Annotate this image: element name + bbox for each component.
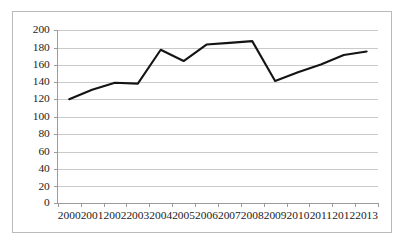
x-tick-label: 2006 — [195, 209, 218, 221]
x-tick-label: 2000 — [58, 209, 81, 221]
y-tick-labels-group: 020406080100120140160180200 — [33, 23, 50, 208]
y-tick-label: 200 — [33, 23, 50, 35]
x-tick-label: 2001 — [81, 209, 104, 221]
y-tick-label: 20 — [38, 180, 50, 192]
y-tick-label: 120 — [33, 92, 50, 104]
x-tick-labels-group: 2000200120022003200420052006200720082009… — [58, 209, 379, 221]
gridlines-group — [58, 30, 378, 203]
x-tick-label: 2004 — [149, 209, 172, 221]
y-tick-label: 40 — [38, 162, 50, 174]
data-series-group — [69, 41, 366, 99]
x-tick-label: 2005 — [172, 209, 195, 221]
y-tick-label: 140 — [33, 75, 50, 87]
x-tick-label: 2007 — [218, 209, 241, 221]
x-tick-label: 2013 — [355, 209, 378, 221]
y-tick-label: 80 — [38, 127, 50, 139]
series-line-series-1 — [69, 41, 366, 99]
y-tick-label: 180 — [33, 41, 50, 53]
y-tick-label: 60 — [38, 145, 50, 157]
line-chart: 020406080100120140160180200 200020012002… — [13, 12, 391, 232]
x-tick-label: 2008 — [241, 209, 264, 221]
x-tick-label: 2011 — [310, 209, 333, 221]
y-tick-label: 100 — [33, 110, 50, 122]
y-tick-label: 0 — [44, 196, 50, 208]
y-tick-label: 160 — [33, 58, 50, 70]
x-tick-label: 2010 — [287, 209, 310, 221]
x-tick-label: 2012 — [332, 209, 355, 221]
x-tick-label: 2003 — [126, 209, 149, 221]
x-tick-label: 2002 — [104, 209, 127, 221]
x-tick-label: 2009 — [264, 209, 287, 221]
chart-figure: 020406080100120140160180200 200020012002… — [12, 11, 392, 233]
